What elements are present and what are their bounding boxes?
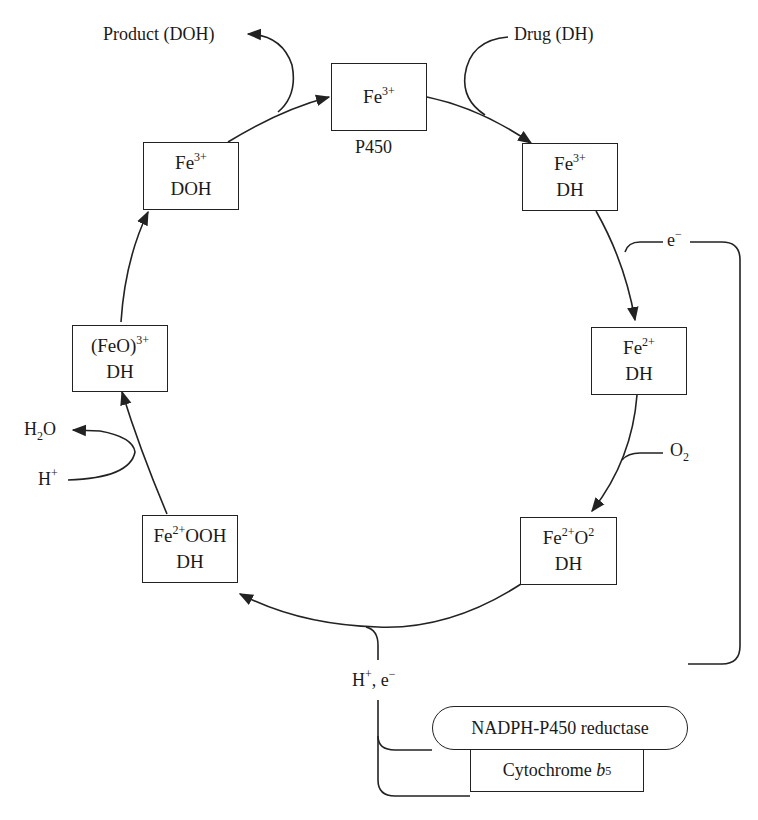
node-charge: 3+ [573, 151, 586, 165]
node-substrate: DH [106, 359, 133, 385]
node-substrate: DH [556, 177, 583, 203]
node-text: Fe [543, 527, 562, 548]
node-charge: 3+ [136, 333, 149, 347]
node-feo3-dh: (FeO)3+ DH [72, 325, 168, 392]
water-label: H2O [24, 419, 56, 440]
nadph-p450-reductase: NADPH-P450 reductase [432, 706, 688, 750]
node-substrate: DOH [170, 176, 211, 202]
node-fe3-dh: Fe3+ DH [522, 143, 618, 211]
node-charge: 3+ [382, 84, 395, 98]
oxygen-label: O2 [670, 440, 689, 461]
proton-label: H+ [38, 469, 58, 490]
node-fe2-dh: Fe2+ DH [591, 327, 687, 395]
node-text: Fe [554, 153, 573, 174]
node-fe2-ooh-dh: Fe2+OOH DH [142, 515, 238, 583]
cytochrome-b5: Cytochrome b5 [470, 749, 644, 792]
node-ligand: OOH [185, 525, 226, 546]
node-text: Fe [363, 86, 382, 107]
node-fe3-doh: Fe3+ DOH [143, 142, 239, 210]
node-text: Fe [175, 152, 194, 173]
node-text: (FeO) [91, 335, 136, 356]
node-charge: 2+ [562, 525, 575, 539]
node-text: Fe [154, 525, 173, 546]
node-ligand-sup: 2 [588, 525, 594, 539]
node-charge: 2+ [642, 335, 655, 349]
product-label: Product (DOH) [103, 24, 214, 45]
node-substrate: DH [625, 361, 652, 387]
drug-label: Drug (DH) [514, 24, 593, 45]
node-charge: 3+ [194, 150, 207, 164]
proton-electron-label: H+, e− [352, 670, 396, 691]
node-charge: 2+ [173, 523, 186, 537]
node-p450-fe3: Fe3+ [331, 63, 427, 131]
node-ligand: O [575, 527, 589, 548]
electron-label: e− [667, 230, 682, 251]
p450-caption: P450 [355, 137, 392, 158]
node-text: Fe [623, 337, 642, 358]
node-substrate: DH [555, 551, 582, 577]
node-substrate: DH [176, 549, 203, 575]
node-fe2-o2-dh: Fe2+O2 DH [520, 517, 617, 585]
